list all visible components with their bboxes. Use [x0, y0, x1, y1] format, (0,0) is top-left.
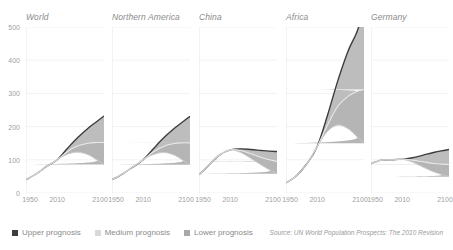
x-tick-1950: 1950 [195, 196, 211, 203]
plot-area [112, 27, 190, 193]
panel-title: World [26, 12, 104, 22]
legend-swatch-medium-icon [95, 230, 101, 236]
legend-label-lower: Lower prognosis [194, 228, 253, 237]
x-tick-1950: 1950 [282, 196, 298, 203]
lower-band [112, 143, 190, 180]
legend-item-lower: Lower prognosis [184, 228, 253, 237]
lower-band [286, 89, 364, 183]
x-tick-1950: 1950 [367, 196, 383, 203]
y-tick-500: 500 [8, 24, 20, 31]
x-tick-2010: 2010 [135, 196, 151, 203]
panel-title: Northern America [112, 12, 190, 22]
x-axis: 195020102100 [112, 196, 190, 210]
panel-northern-america: Northern America195020102100 [112, 0, 190, 215]
panel-title: China [199, 12, 277, 22]
y-axis: 500 400 300 200 100 0 [0, 27, 22, 193]
x-tick-2010: 2010 [394, 196, 410, 203]
y-tick-200: 200 [8, 123, 20, 130]
x-axis: 195020102100 [199, 196, 277, 210]
x-tick-1950: 1950 [108, 196, 124, 203]
legend-swatch-upper-icon [12, 230, 18, 236]
legend-item-upper: Upper prognosis [12, 228, 81, 237]
x-tick-1950: 1950 [22, 196, 38, 203]
y-tick-0: 0 [16, 190, 20, 197]
source-note: Source: UN World Population Prospects: T… [270, 229, 443, 236]
x-axis: 195020102100 [286, 196, 364, 210]
plot-area [371, 27, 449, 193]
x-axis: 195020102100 [26, 196, 104, 210]
x-axis: 195020102100 [371, 196, 449, 210]
plot-area [199, 27, 277, 193]
legend-label-upper: Upper prognosis [22, 228, 81, 237]
legend-swatch-lower-icon [184, 230, 190, 236]
chart-legend: Upper prognosis Medium prognosis Lower p… [12, 228, 253, 237]
panel-title: Germany [371, 12, 449, 22]
x-tick-2100: 2100 [352, 196, 368, 203]
y-tick-300: 300 [8, 90, 20, 97]
x-tick-2100: 2100 [265, 196, 281, 203]
legend-label-medium: Medium prognosis [105, 228, 170, 237]
x-tick-2100: 2100 [92, 196, 108, 203]
panel-china: China195020102100 [199, 0, 277, 215]
x-tick-2100: 2100 [437, 196, 453, 203]
y-tick-400: 400 [8, 57, 20, 64]
y-tick-100: 100 [8, 156, 20, 163]
x-tick-2100: 2100 [178, 196, 194, 203]
plot-area [286, 27, 364, 193]
x-tick-2010: 2010 [49, 196, 65, 203]
panel-germany: Germany195020102100 [371, 0, 449, 215]
panel-title: Africa [286, 12, 364, 22]
panel-africa: Africa195020102100 [286, 0, 364, 215]
plot-area [26, 27, 104, 193]
x-tick-2010: 2010 [222, 196, 238, 203]
panel-world: World195020102100 [26, 0, 104, 215]
lower-band [26, 142, 104, 179]
legend-item-medium: Medium prognosis [95, 228, 170, 237]
x-tick-2010: 2010 [309, 196, 325, 203]
